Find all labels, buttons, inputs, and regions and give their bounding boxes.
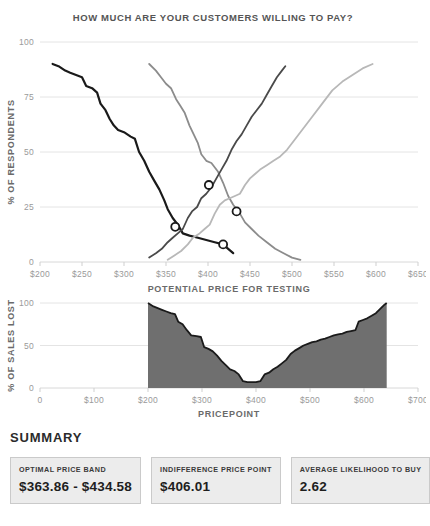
chart1-series-cheap [149,64,300,260]
chart2-xtick-label: $400 [246,395,266,405]
chart1-xtick-label: $650 [408,269,426,279]
chart1-marker-point-of-marginal-expensiveness [219,240,227,248]
summary-heading: SUMMARY [10,430,82,445]
card-label: AVERAGE LIKELIHOOD TO BUY [300,465,422,474]
chart2-xtick-label: $700 [408,395,426,405]
chart2-ytick-label: 50 [24,341,34,351]
chart1-xtick-label: $400 [198,269,218,279]
chart2-xtick-label: $300 [192,395,212,405]
chart2-xtick-label: $200 [138,395,158,405]
chart1-ytick-label: 100 [19,37,34,47]
card-value: $406.01 [160,479,272,494]
chart1-ytick-label: 0 [29,257,34,267]
chart1-xtick-label: $600 [366,269,386,279]
chart2-xaxis-title: PRICEPOINT [198,409,260,419]
chart2-xtick-label: $600 [354,395,374,405]
chart1-xtick-label: $450 [240,269,260,279]
summary-card-average-likelihood-to-buy: AVERAGE LIKELIHOOD TO BUY 2.62 [291,457,430,504]
chart1-series-too-expensive [168,64,373,260]
card-label: OPTIMAL PRICE BAND [19,465,132,474]
chart1-xtick-label: $250 [72,269,92,279]
chart1-xtick-label: $200 [30,269,50,279]
chart1-ytick-label: 25 [24,202,34,212]
chart1-marker-optimal-price-point [205,181,213,189]
summary-cards: OPTIMAL PRICE BAND $363.86 - $434.58 IND… [10,457,418,504]
chart1-ytick-label: 50 [24,147,34,157]
chart2-yaxis-title: % OF SALES LOST [6,299,16,392]
card-value: 2.62 [300,479,422,494]
chart1-xtick-label: $500 [282,269,302,279]
chart1-xtick-label: $550 [324,269,344,279]
chart2-xtick-label: $100 [84,395,104,405]
chart1-xaxis-title: POTENTIAL PRICE FOR TESTING [148,284,311,294]
chart2-xtick-label: $500 [300,395,320,405]
card-label: INDIFFERENCE PRICE POINT [160,465,272,474]
chart2-xtick-label: 0 [37,395,42,405]
chart1-xtick-label: $350 [156,269,176,279]
chart1-series-too-cheap [53,64,234,253]
chart1-xtick-label: $300 [114,269,134,279]
charts-canvas: 0255075100$200$250$300$350$400$450$500$5… [0,0,426,426]
chart2-ytick-label: 100 [19,298,34,308]
card-value: $363.86 - $434.58 [19,479,132,494]
chart1-series-expensive [149,66,285,257]
chart1-yaxis-title: % OF RESPONDENTS [6,99,16,204]
chart2-ytick-label: 0 [29,383,34,393]
summary-card-optimal-price-band: OPTIMAL PRICE BAND $363.86 - $434.58 [10,457,141,504]
chart1-marker-point-of-marginal-cheapness [171,223,179,231]
chart1-ytick-label: 75 [24,92,34,102]
summary-card-indifference-price-point: INDIFFERENCE PRICE POINT $406.01 [151,457,281,504]
chart1-marker-indifference-price-point [233,207,241,215]
